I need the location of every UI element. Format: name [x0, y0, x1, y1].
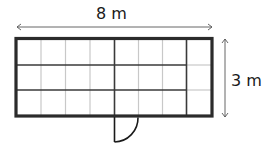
door-icon	[115, 117, 139, 142]
width-dimension-arrow	[17, 24, 212, 30]
minor-grid-lines	[41, 39, 211, 116]
height-dimension-label: 3 m	[231, 73, 262, 89]
width-dimension-label: 8 m	[96, 6, 127, 22]
height-dimension-arrow	[222, 39, 228, 117]
